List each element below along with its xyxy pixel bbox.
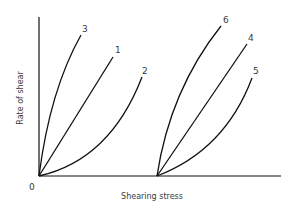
x-axis-title: Shearing stress [121,192,183,201]
curve-4-label: 4 [248,33,254,43]
curve-4 [157,44,247,176]
curve-2 [39,77,142,176]
curve-5 [157,78,252,176]
curve-5-label: 5 [253,66,259,76]
curve-2-label: 2 [142,66,148,76]
origin-label: 0 [29,182,35,192]
curve-6-label: 6 [223,15,229,25]
curve-6 [157,26,221,176]
curve-3-label: 3 [82,24,88,34]
y-axis-title: Rate of shear [16,71,25,125]
curve-3 [39,35,81,176]
rheology-diagram: 3 1 2 6 4 5 0 Shearing stress Rate of sh… [0,0,294,212]
curve-1-label: 1 [115,45,121,55]
